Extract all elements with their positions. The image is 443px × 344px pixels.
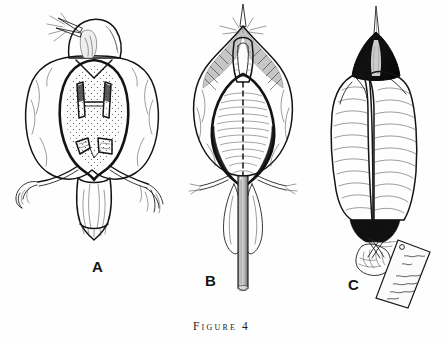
- pin-rod-tip: [238, 285, 248, 290]
- specimen-tag: [376, 240, 430, 308]
- cone-crease-lines: [334, 87, 416, 213]
- open-breast-incision: [212, 74, 275, 190]
- bird-head-dark-cap: [69, 19, 122, 58]
- panel-label-a: A: [92, 258, 103, 275]
- tail-feathers: [77, 178, 112, 240]
- figure-panel-b: [176, 4, 310, 304]
- figure-caption: Figure 4: [0, 320, 443, 332]
- rictal-bristles: [47, 13, 68, 41]
- figure-panel-c: [312, 6, 443, 306]
- dark-tail-tip: [350, 220, 400, 242]
- black-head-with-long-beak: [352, 6, 400, 81]
- figure-page: A: [0, 0, 443, 344]
- paper-cone-wrapping: [331, 72, 417, 220]
- vertical-pin-rod: [238, 176, 248, 291]
- panel-label-b: B: [205, 272, 216, 289]
- opened-body-cavity: [60, 60, 129, 180]
- panel-label-c: C: [348, 276, 359, 293]
- figure-panel-a: [6, 8, 178, 258]
- open-beak: [56, 18, 82, 37]
- beak-pointing-up: [240, 4, 246, 26]
